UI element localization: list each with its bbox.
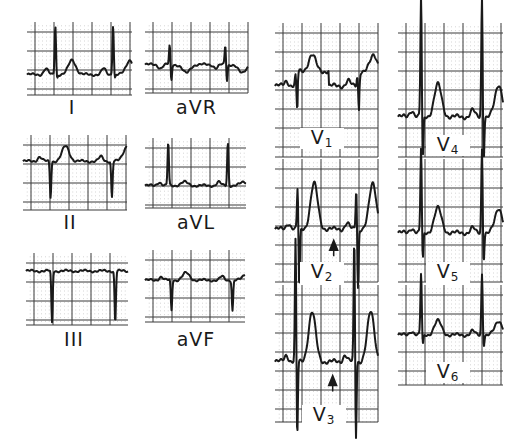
major-grid-lines — [26, 253, 128, 325]
ecg-grid — [23, 135, 127, 210]
lead-label-v1: V1 — [300, 128, 344, 149]
ecg-grid — [27, 22, 132, 95]
lead-label-i: I — [52, 98, 92, 117]
lead-label-iii: III — [54, 330, 94, 349]
major-grid-lines — [27, 22, 132, 95]
ecg-strip-iii — [26, 253, 128, 325]
minor-grid-dots — [149, 26, 249, 91]
lead-label-avr: aVR — [176, 98, 216, 117]
ecg-strip-avl — [145, 138, 246, 208]
ecg-grid — [275, 285, 378, 422]
minor-grid-dots — [30, 257, 126, 322]
ecg-trace — [145, 144, 246, 187]
ecg-grid — [145, 22, 248, 93]
ecg-trace — [398, 274, 503, 346]
lead-label-ii: II — [50, 213, 90, 232]
lead-label-v5: V5 — [426, 262, 470, 283]
major-grid-lines — [145, 250, 245, 322]
ecg-trace — [275, 54, 378, 110]
ecg-strip-v3 — [275, 285, 378, 422]
ecg-grid — [145, 250, 245, 322]
ecg-strip-i — [27, 22, 132, 95]
lead-label-v6: V6 — [426, 362, 470, 383]
ecg-grid — [145, 138, 246, 208]
lead-label-v4: V4 — [426, 135, 470, 156]
lead-label-v2: V2 — [300, 262, 344, 283]
ecg-trace — [145, 272, 245, 311]
lead-label-avf: aVF — [176, 330, 216, 349]
lead-label-v3: V3 — [302, 405, 346, 426]
ecg-strip-avr — [145, 22, 248, 93]
major-grid-lines — [145, 22, 248, 93]
lead-label-avl: aVL — [176, 213, 216, 232]
ecg-strip-ii — [23, 135, 127, 210]
minor-grid-dots — [149, 142, 245, 207]
minor-grid-dots — [31, 26, 131, 94]
arrow-up-icon — [329, 375, 337, 391]
ecg-strip-avf — [145, 250, 245, 322]
ecg-trace — [26, 270, 128, 323]
ecg-grid — [26, 253, 128, 325]
major-grid-lines — [145, 138, 246, 208]
